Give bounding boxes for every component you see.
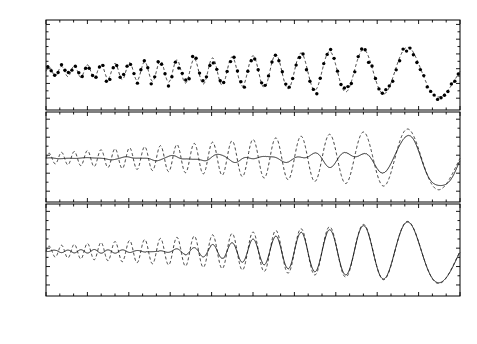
data-point xyxy=(167,84,170,87)
data-point xyxy=(201,79,204,82)
data-point xyxy=(405,49,408,52)
data-point xyxy=(77,71,80,74)
figure-canvas xyxy=(0,0,477,344)
data-point xyxy=(381,92,384,95)
data-point xyxy=(56,71,59,74)
data-point xyxy=(281,70,284,73)
data-point xyxy=(163,72,166,75)
data-point xyxy=(363,48,366,51)
data-point xyxy=(122,73,125,76)
data-point xyxy=(150,82,153,85)
data-point xyxy=(112,66,115,69)
data-point xyxy=(67,71,70,74)
data-point xyxy=(60,63,63,66)
data-point xyxy=(236,69,239,72)
data-point xyxy=(153,75,156,78)
data-point xyxy=(415,61,418,64)
data-point xyxy=(129,63,132,66)
data-point xyxy=(84,67,87,70)
data-point xyxy=(132,72,135,75)
data-point xyxy=(143,59,146,62)
data-point xyxy=(156,60,159,63)
data-point xyxy=(394,68,397,71)
data-point xyxy=(412,53,415,56)
data-point xyxy=(322,62,325,65)
data-point xyxy=(398,59,401,62)
data-point xyxy=(98,65,101,68)
data-point xyxy=(184,78,187,81)
data-point xyxy=(277,59,280,62)
data-point xyxy=(181,72,184,75)
data-point xyxy=(94,76,97,79)
data-point xyxy=(301,52,304,55)
data-point xyxy=(450,82,453,85)
data-point xyxy=(108,78,111,81)
data-point xyxy=(436,98,439,101)
data-point xyxy=(353,70,356,73)
data-point xyxy=(256,68,259,71)
data-point xyxy=(250,59,253,62)
data-point xyxy=(343,86,346,89)
data-point xyxy=(308,80,311,83)
data-point xyxy=(315,92,318,95)
data-point xyxy=(81,75,84,78)
data-point xyxy=(205,75,208,78)
data-point xyxy=(49,69,52,72)
data-point xyxy=(391,80,394,83)
data-point xyxy=(101,64,104,67)
data-point xyxy=(194,57,197,60)
data-point xyxy=(374,77,377,80)
data-point xyxy=(215,68,218,71)
data-point xyxy=(253,57,256,60)
data-point xyxy=(426,85,429,88)
data-point xyxy=(339,83,342,86)
data-point xyxy=(263,84,266,87)
data-point xyxy=(298,56,301,59)
data-point xyxy=(377,87,380,90)
data-point xyxy=(208,64,211,67)
data-point xyxy=(429,90,432,93)
data-point xyxy=(270,60,273,63)
data-point xyxy=(432,93,435,96)
data-point xyxy=(174,60,177,63)
data-point xyxy=(53,74,56,77)
data-point xyxy=(357,55,360,58)
data-point xyxy=(370,64,373,67)
data-point xyxy=(274,54,277,57)
data-point xyxy=(243,85,246,88)
data-point xyxy=(422,74,425,77)
data-point xyxy=(139,68,142,71)
data-point xyxy=(367,61,370,64)
data-point xyxy=(63,69,66,72)
data-point xyxy=(46,65,49,68)
data-point xyxy=(419,68,422,71)
panel-frame-1 xyxy=(46,112,460,202)
panel-frame-0 xyxy=(46,20,460,110)
data-point xyxy=(457,72,460,75)
data-point xyxy=(346,85,349,88)
data-point xyxy=(87,66,90,69)
data-point xyxy=(388,84,391,87)
data-point xyxy=(336,69,339,72)
data-point xyxy=(384,88,387,91)
true-signal-dashed-a xyxy=(46,47,460,97)
data-point xyxy=(443,94,446,97)
data-point xyxy=(170,75,173,78)
data-point xyxy=(70,68,73,71)
data-point xyxy=(229,60,232,63)
data-point xyxy=(294,63,297,66)
data-point xyxy=(350,82,353,85)
data-point xyxy=(325,53,328,56)
data-point xyxy=(332,57,335,60)
data-point xyxy=(187,77,190,80)
data-point xyxy=(246,70,249,73)
data-point xyxy=(136,81,139,84)
data-point xyxy=(160,62,163,65)
data-point xyxy=(305,68,308,71)
data-point xyxy=(284,82,287,85)
data-point xyxy=(312,88,315,91)
data-point xyxy=(91,74,94,77)
chirp-figure xyxy=(0,0,477,344)
data-point xyxy=(219,79,222,82)
data-point xyxy=(74,65,77,68)
